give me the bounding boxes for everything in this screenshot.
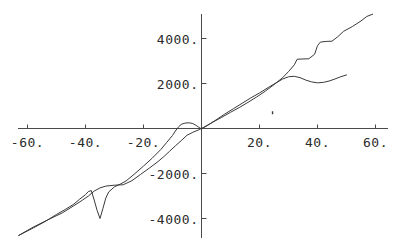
x-tick-label: 40. xyxy=(305,135,330,150)
x-tick-label: -20. xyxy=(127,135,160,150)
y-tick-label: -2000. xyxy=(149,166,199,181)
plot-figure: -60.-40.-20.20.40.60. 4000.2000.-2000.-4… xyxy=(0,0,393,242)
x-tick-label: 20. xyxy=(247,135,272,150)
data-series-group xyxy=(19,14,373,235)
y-tick-label: -4000. xyxy=(149,211,199,226)
y-tick-label: 4000. xyxy=(157,31,199,46)
x-tick-label: -60. xyxy=(11,135,44,150)
x-tick-label: 60. xyxy=(363,135,388,150)
x-tick-label: -40. xyxy=(69,135,102,150)
annotations-group xyxy=(272,111,273,114)
annotation-stray-mark xyxy=(272,111,273,114)
y-tick-label: 2000. xyxy=(157,76,199,91)
